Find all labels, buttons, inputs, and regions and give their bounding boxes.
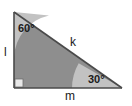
side-label-k: k <box>70 36 76 48</box>
geometry-diagram: 60° 30° l k m <box>0 0 132 106</box>
angle-label-60: 60° <box>18 23 35 34</box>
angle-label-30: 30° <box>88 74 105 85</box>
side-label-l: l <box>4 46 7 58</box>
right-angle-marker <box>15 79 23 87</box>
side-label-m: m <box>65 90 75 102</box>
